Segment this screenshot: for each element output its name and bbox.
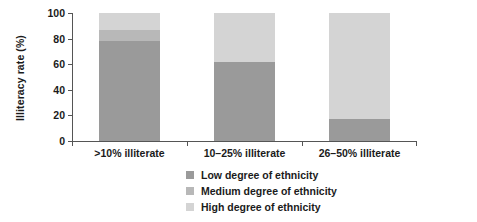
legend-label: High degree of ethnicity bbox=[201, 200, 321, 214]
x-category-label-3: 26–50% illiterate bbox=[319, 147, 401, 159]
y-tick-mark bbox=[68, 115, 72, 116]
bar-3[interactable] bbox=[329, 13, 390, 141]
y-tick-80: 80 bbox=[72, 39, 73, 40]
x-tick-mark bbox=[187, 141, 188, 146]
bar-segment[interactable] bbox=[329, 13, 390, 119]
y-tick-100: 100 bbox=[72, 13, 73, 14]
y-tick-20: 20 bbox=[72, 115, 73, 116]
x-category-label-2: 10–25% illiterate bbox=[204, 147, 286, 159]
legend-label: Medium degree of ethnicity bbox=[201, 184, 337, 198]
y-tick-mark bbox=[68, 90, 72, 91]
y-tick-label: 0 bbox=[59, 135, 65, 147]
y-tick-label: 60 bbox=[53, 58, 65, 70]
y-tick-label: 20 bbox=[53, 109, 65, 121]
legend-swatch-icon bbox=[186, 171, 194, 179]
bar-2[interactable] bbox=[214, 13, 275, 141]
y-axis-line bbox=[72, 13, 73, 141]
legend-item-2[interactable]: Medium degree of ethnicity bbox=[186, 184, 337, 198]
y-tick-40: 40 bbox=[72, 90, 73, 91]
y-tick-label: 80 bbox=[53, 33, 65, 45]
legend-item-1[interactable]: Low degree of ethnicity bbox=[186, 168, 337, 182]
x-category-label-1: >10% illiterate bbox=[94, 147, 164, 159]
y-tick-label: 40 bbox=[53, 84, 65, 96]
legend-swatch-icon bbox=[186, 187, 194, 195]
y-tick-mark bbox=[68, 64, 72, 65]
x-tick-mark bbox=[416, 141, 417, 146]
bar-segment[interactable] bbox=[99, 30, 160, 42]
bar-1[interactable] bbox=[99, 13, 160, 141]
y-tick-mark bbox=[68, 39, 72, 40]
bar-segment[interactable] bbox=[99, 41, 160, 141]
chart-figure: Illiteracy rate (%) 020406080100 >10% il… bbox=[0, 0, 477, 222]
plot-area: 020406080100 bbox=[72, 13, 417, 141]
bar-segment[interactable] bbox=[214, 13, 275, 62]
y-tick-60: 60 bbox=[72, 64, 73, 65]
x-tick-mark bbox=[72, 141, 73, 146]
chart-legend: Low degree of ethnicityMedium degree of … bbox=[186, 168, 337, 214]
x-tick-mark bbox=[302, 141, 303, 146]
legend-label: Low degree of ethnicity bbox=[201, 168, 318, 182]
legend-swatch-icon bbox=[186, 203, 194, 211]
bar-segment[interactable] bbox=[329, 119, 390, 141]
legend-item-3[interactable]: High degree of ethnicity bbox=[186, 200, 337, 214]
bar-segment[interactable] bbox=[99, 13, 160, 30]
y-axis-title: Illiteracy rate (%) bbox=[11, 12, 29, 144]
x-axis-line bbox=[72, 141, 417, 142]
y-tick-label: 100 bbox=[47, 7, 65, 19]
y-tick-mark bbox=[68, 13, 72, 14]
bar-segment[interactable] bbox=[214, 62, 275, 141]
